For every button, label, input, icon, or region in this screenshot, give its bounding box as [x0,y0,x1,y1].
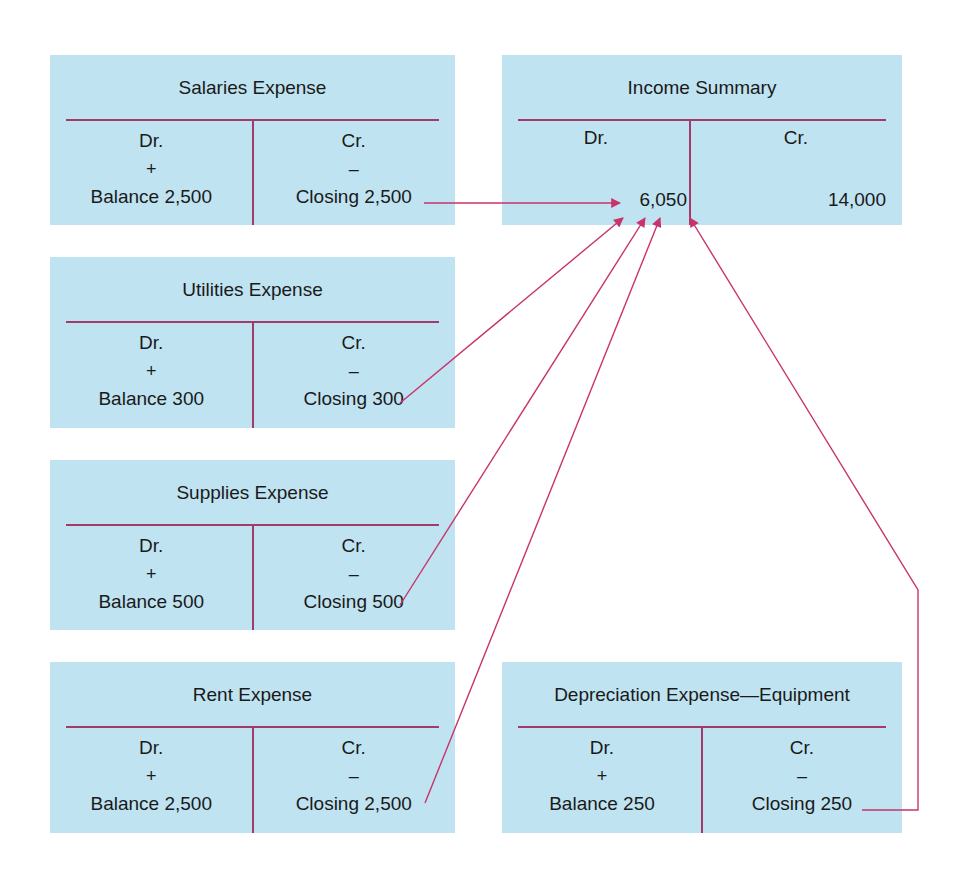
account-title: Income Summary [502,77,902,99]
t-account-utilities-expense: Utilities Expense Dr. + Balance 300 Cr. … [50,257,455,428]
debit-column: Dr. + Balance 2,500 [50,127,253,211]
credit-label: Cr. [690,127,902,149]
t-account-income-summary: Income Summary Dr. Cr. 6,050 14,000 [502,55,902,225]
credit-label: Cr. [253,329,456,357]
t-horizontal-rule [518,119,886,121]
debit-column: Dr. + Balance 250 [502,734,702,818]
account-title: Rent Expense [50,684,455,706]
credit-column: Cr. – Closing 2,500 [253,127,456,211]
credit-label: Cr. [253,532,456,560]
account-title: Utilities Expense [50,279,455,301]
credit-label: Cr. [253,127,456,155]
debit-label: Dr. [50,532,253,560]
debit-entry: Balance 2,500 [50,183,253,211]
minus-sign: – [253,357,456,385]
account-title: Supplies Expense [50,482,455,504]
debit-column: Dr. + Balance 2,500 [50,734,253,818]
minus-sign: – [253,762,456,790]
debit-label: Dr. [502,127,690,149]
debit-entry: Balance 250 [502,790,702,818]
t-account-salaries-expense: Salaries Expense Dr. + Balance 2,500 Cr.… [50,55,455,225]
debit-entry: Balance 300 [50,385,253,413]
plus-sign: + [50,357,253,385]
plus-sign: + [50,762,253,790]
credit-column: Cr. – Closing 500 [253,532,456,616]
credit-entry: Closing 2,500 [253,790,456,818]
credit-entry: Closing 300 [253,385,456,413]
credit-label: Cr. [253,734,456,762]
credit-entry: Closing 250 [702,790,902,818]
debit-label: Dr. [502,734,702,762]
minus-sign: – [253,560,456,588]
account-title: Salaries Expense [50,77,455,99]
credit-entry: Closing 500 [253,588,456,616]
credit-entry: Closing 2,500 [253,183,456,211]
debit-label: Dr. [50,734,253,762]
debit-entry: Balance 500 [50,588,253,616]
debit-total: 6,050 [639,189,687,211]
credit-column: Cr. – Closing 2,500 [253,734,456,818]
plus-sign: + [50,560,253,588]
t-account-supplies-expense: Supplies Expense Dr. + Balance 500 Cr. –… [50,460,455,630]
credit-column: Cr. – Closing 300 [253,329,456,413]
t-account-rent-expense: Rent Expense Dr. + Balance 2,500 Cr. – C… [50,662,455,833]
plus-sign: + [50,155,253,183]
debit-column: Dr. + Balance 300 [50,329,253,413]
debit-column: Dr. + Balance 500 [50,532,253,616]
debit-label: Dr. [50,329,253,357]
minus-sign: – [253,155,456,183]
credit-label: Cr. [702,734,902,762]
minus-sign: – [702,762,902,790]
credit-column: Cr. – Closing 250 [702,734,902,818]
account-title: Depreciation Expense—Equipment [502,684,902,706]
plus-sign: + [502,762,702,790]
credit-total: 14,000 [828,189,886,211]
debit-entry: Balance 2,500 [50,790,253,818]
debit-label: Dr. [50,127,253,155]
t-account-depreciation-expense-equipment: Depreciation Expense—Equipment Dr. + Bal… [502,662,902,833]
